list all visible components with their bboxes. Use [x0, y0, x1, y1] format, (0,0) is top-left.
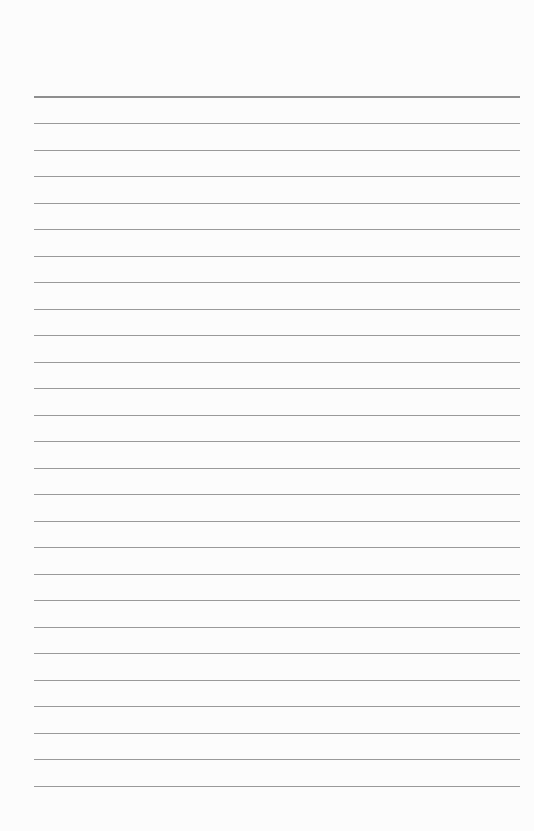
rule-line — [34, 653, 520, 654]
rule-line — [34, 680, 520, 681]
header-rule-line — [34, 96, 520, 98]
rule-line — [34, 123, 520, 124]
rule-line — [34, 547, 520, 548]
rule-line — [34, 759, 520, 760]
rule-line — [34, 150, 520, 151]
rule-line — [34, 574, 520, 575]
rule-line — [34, 733, 520, 734]
rule-line — [34, 521, 520, 522]
rule-line — [34, 441, 520, 442]
rule-line — [34, 415, 520, 416]
rule-line — [34, 468, 520, 469]
rule-line — [34, 176, 520, 177]
rule-line — [34, 362, 520, 363]
rule-line — [34, 309, 520, 310]
rule-line — [34, 494, 520, 495]
rule-line — [34, 203, 520, 204]
rule-line — [34, 388, 520, 389]
rule-line — [34, 256, 520, 257]
rule-line — [34, 786, 520, 787]
rule-line — [34, 600, 520, 601]
rule-line — [34, 335, 520, 336]
rule-line — [34, 627, 520, 628]
notebook-page — [0, 0, 534, 831]
rule-line — [34, 706, 520, 707]
rule-line — [34, 282, 520, 283]
rule-line — [34, 229, 520, 230]
